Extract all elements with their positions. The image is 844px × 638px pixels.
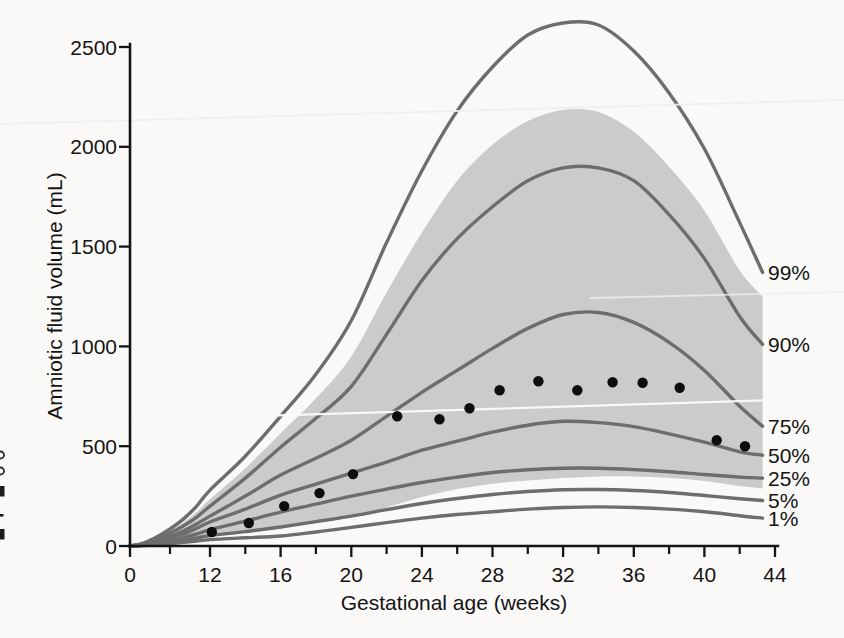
mean-data-point (392, 411, 402, 421)
mean-data-point (607, 377, 617, 387)
mean-data-point (637, 378, 647, 388)
y-tick-label-2500: 2500 (70, 36, 117, 59)
y-tick-label-1000: 1000 (70, 335, 117, 358)
edge-glyph-fragment (0, 486, 5, 497)
percentile-label-25: 25% (768, 467, 810, 490)
mean-data-point (712, 435, 722, 445)
mean-data-point (572, 385, 582, 395)
confidence-band-area (130, 109, 763, 546)
y-axis-title: Amniotic fluid volume (mL) (43, 172, 66, 419)
mean-data-point (434, 414, 444, 424)
mean-data-point (740, 441, 750, 451)
percentile-labels-layer: 99%90%75%50%25%5%1% (768, 261, 810, 530)
x-tick-label-12: 12 (198, 563, 221, 586)
mean-data-point (348, 469, 358, 479)
scanned-figure-page: 050010001500200025000121620242832364044 … (0, 0, 844, 638)
edge-glyph-fragment (0, 452, 4, 459)
percentile-label-1: 1% (768, 507, 798, 530)
x-tick-label-0: 0 (124, 563, 136, 586)
mean-data-point (279, 501, 289, 511)
x-tick-label-16: 16 (269, 563, 292, 586)
percentile-label-50: 50% (768, 444, 810, 467)
mean-data-point (533, 376, 543, 386)
y-tick-label-0: 0 (105, 535, 117, 558)
mean-data-point (207, 527, 217, 537)
percentile-label-90: 90% (768, 333, 810, 356)
mean-data-point (314, 488, 324, 498)
page-edge-print-fragments (0, 452, 5, 540)
x-axis-title: Gestational age (weeks) (341, 591, 567, 614)
x-tick-label-32: 32 (551, 563, 574, 586)
percentile-label-99: 99% (768, 261, 810, 284)
edge-glyph-fragment (0, 529, 5, 540)
y-tick-label-1500: 1500 (70, 235, 117, 258)
confidence-band-layer (130, 109, 763, 546)
x-tick-label-24: 24 (410, 563, 434, 586)
scan-scratch-line (0, 100, 844, 124)
x-tick-label-20: 20 (340, 563, 363, 586)
mean-data-point (244, 518, 254, 528)
mean-data-point (675, 383, 685, 393)
edge-glyph-fragment (0, 514, 4, 517)
edge-glyph-fragment (0, 468, 4, 475)
y-tick-label-500: 500 (82, 435, 117, 458)
x-tick-label-28: 28 (481, 563, 504, 586)
mean-data-point (494, 385, 504, 395)
x-tick-label-36: 36 (622, 563, 645, 586)
x-tick-label-44: 44 (763, 563, 787, 586)
percentile-label-75: 75% (768, 415, 810, 438)
mean-data-point (464, 403, 474, 413)
amniotic-fluid-volume-chart: 050010001500200025000121620242832364044 … (0, 0, 844, 638)
x-tick-label-40: 40 (693, 563, 716, 586)
y-tick-label-2000: 2000 (70, 135, 117, 158)
